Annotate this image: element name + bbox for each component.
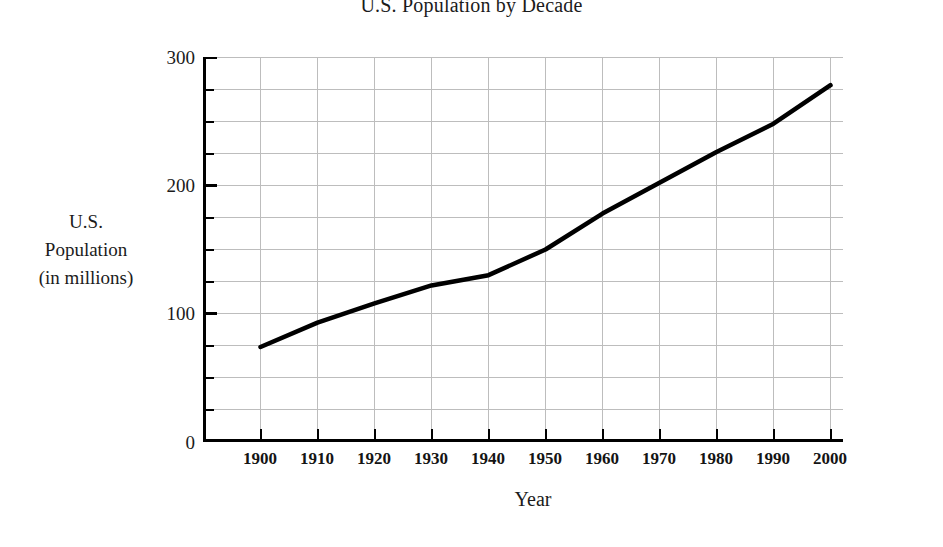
x-tick-label-1990: 1990 xyxy=(741,450,805,468)
plot-area xyxy=(203,57,843,442)
x-tick-label-1920: 1920 xyxy=(342,450,406,468)
y-tick-label-300: 300 xyxy=(135,48,195,67)
y-tick-label-0: 0 xyxy=(135,433,195,452)
x-tick-label-2000: 2000 xyxy=(798,450,862,468)
x-axis-title: Year xyxy=(463,487,603,511)
x-tick-label-1930: 1930 xyxy=(399,450,463,468)
chart-title: U.S. Population by Decade xyxy=(0,0,943,17)
x-tick-label-1940: 1940 xyxy=(456,450,520,468)
y-axis-title-line-3: (in millions) xyxy=(6,264,166,292)
y-axis-title-line-2: Population xyxy=(6,236,166,264)
y-tick-label-100: 100 xyxy=(135,304,195,323)
x-tick-label-1960: 1960 xyxy=(570,450,634,468)
y-axis-title: U.S. Population (in millions) xyxy=(6,208,166,292)
x-tick-label-1910: 1910 xyxy=(285,450,349,468)
y-axis-title-line-1: U.S. xyxy=(6,208,166,236)
x-tick-label-1970: 1970 xyxy=(627,450,691,468)
x-tick-label-1950: 1950 xyxy=(513,450,577,468)
x-tick-label-1900: 1900 xyxy=(228,450,292,468)
plot-svg xyxy=(203,57,843,442)
horizontal-gridlines xyxy=(203,58,843,410)
x-tick-label-1980: 1980 xyxy=(684,450,748,468)
y-tick-label-200: 200 xyxy=(135,176,195,195)
